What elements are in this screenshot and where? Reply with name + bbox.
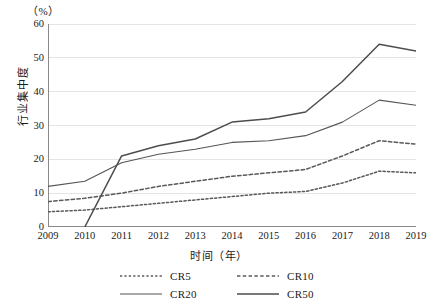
x-tick-label: 2013 — [175, 230, 215, 242]
x-tick-label: 2011 — [102, 230, 142, 242]
legend-item-cr5[interactable]: CR5 — [119, 268, 191, 284]
legend-swatch-cr50-icon — [236, 288, 280, 300]
x-tick-label: 2012 — [138, 230, 178, 242]
legend-item-cr10[interactable]: CR10 — [236, 268, 314, 284]
legend-swatch-cr20-icon — [119, 288, 163, 300]
chart-plot-svg — [48, 24, 416, 227]
y-tick-label: 60 — [22, 19, 44, 30]
x-tick-label: 2015 — [249, 230, 289, 242]
x-axis-tick-labels: 2009201020112012201320142015201620172018… — [48, 230, 416, 246]
y-tick-label: 30 — [22, 121, 44, 132]
legend-swatch-cr10-icon — [236, 270, 280, 282]
legend-item-cr50[interactable]: CR50 — [236, 286, 314, 302]
x-tick-label: 2019 — [396, 230, 436, 242]
legend-swatch-cr5-icon — [119, 270, 163, 282]
y-tick-label: 40 — [22, 87, 44, 98]
legend-label: CR10 — [287, 270, 314, 282]
legend-label: CR50 — [287, 288, 314, 300]
y-tick-label: 10 — [22, 188, 44, 199]
series-line-cr50 — [85, 44, 416, 227]
legend-item-cr20[interactable]: CR20 — [119, 286, 197, 302]
y-axis-tick-labels: 0102030405060 — [18, 24, 44, 227]
x-axis-title: 时间（年） — [0, 247, 438, 263]
y-axis-unit-label: （%） — [27, 2, 60, 18]
y-tick-label: 50 — [22, 53, 44, 64]
x-tick-label: 2014 — [212, 230, 252, 242]
x-tick-label: 2017 — [322, 230, 362, 242]
legend-label: CR5 — [170, 270, 191, 282]
series-line-cr20 — [48, 100, 416, 186]
x-tick-label: 2010 — [65, 230, 105, 242]
plot-area — [48, 24, 416, 227]
x-tick-label: 2009 — [28, 230, 68, 242]
legend-label: CR20 — [170, 288, 197, 300]
chart-figure: （%） 行业集中度 0102030405060 2009201020112012… — [0, 0, 438, 306]
chart-legend: CR5CR10CR20CR50 — [119, 268, 339, 304]
x-tick-label: 2018 — [359, 230, 399, 242]
x-tick-label: 2016 — [286, 230, 326, 242]
y-tick-label: 20 — [22, 154, 44, 165]
